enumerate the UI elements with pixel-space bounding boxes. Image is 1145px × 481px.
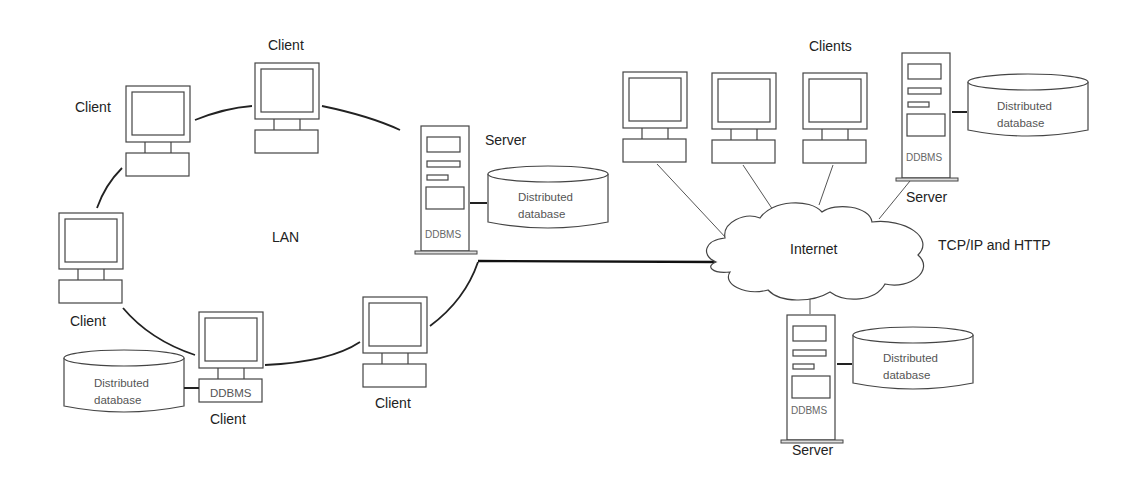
distributed-database-diagram: Client Client Client Client DDBMS Client… [0,0,1145,481]
lan-client-database-line2: database [94,394,141,406]
wan-link [478,261,716,262]
internet-client-1[interactable] [623,72,687,162]
internet-server-top-database[interactable]: Distributed database [952,74,1088,136]
lan-client-top[interactable]: Client [255,37,319,153]
internet-server-bottom[interactable]: DDBMS Server [781,315,843,458]
lan-client-ddbms[interactable]: DDBMS Client [199,312,263,427]
lan-client-database-line1: Distributed [94,377,149,389]
lan-server-software: DDBMS [425,229,461,240]
internet-server-bottom-database-line1: Distributed [883,352,938,364]
lan-server-database[interactable]: Distributed database [470,166,608,228]
lan-client-bottom-right-label: Client [375,395,411,411]
internet-server-bottom-software: DDBMS [791,405,827,416]
internet-client-2[interactable] [712,73,776,163]
lan-server-database-line2: database [518,208,565,220]
internet-server-top-software: DDBMS [906,152,942,163]
internet-server-bottom-database-line2: database [883,369,930,381]
lan-client-left[interactable]: Client [59,213,123,329]
lan-client-upper-left-label: Client [75,99,111,115]
internet-server-bottom-label: Server [792,442,834,458]
lan-client-top-label: Client [268,37,304,53]
internet-client-3[interactable] [803,73,867,163]
internet-cloud[interactable]: Internet [706,203,923,300]
lan-client-ddbms-software: DDBMS [210,387,252,399]
internet-server-bottom-database[interactable]: Distributed database [837,327,973,389]
internet-server-top-database-line1: Distributed [997,100,1052,112]
internet-clients-label: Clients [809,38,852,54]
lan-server-label: Server [485,132,527,148]
internet-label: Internet [790,241,838,257]
lan-server-database-line1: Distributed [518,191,573,203]
lan-client-upper-left[interactable]: Client [75,86,190,176]
lan-client-database[interactable]: Distributed database [64,350,199,412]
lan-client-left-label: Client [70,313,106,329]
internet-server-top[interactable]: DDBMS Server [896,53,958,205]
internet-server-top-database-line2: database [997,117,1044,129]
internet-server-top-label: Server [906,189,948,205]
lan-client-ddbms-label: Client [210,411,246,427]
lan-client-bottom-right[interactable]: Client [363,297,427,411]
protocol-label: TCP/IP and HTTP [938,237,1051,253]
lan-label: LAN [272,229,299,245]
